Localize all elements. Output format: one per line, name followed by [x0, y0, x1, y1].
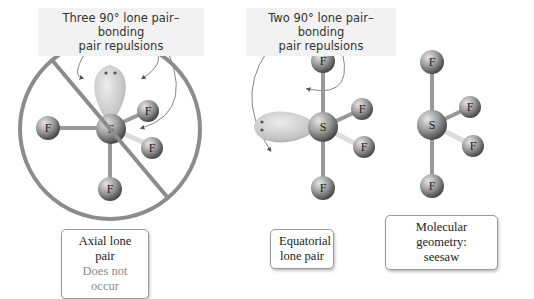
lone-pair-dot	[113, 71, 116, 74]
lone-pair-dot	[104, 71, 107, 74]
svg-text:F: F	[320, 181, 327, 195]
label-line1: Equatorial	[279, 234, 331, 248]
svg-text:F: F	[45, 121, 52, 135]
svg-text:F: F	[107, 182, 114, 196]
label-molecular-geometry: Molecular geometry: seesaw	[385, 215, 498, 270]
svg-text:F: F	[320, 54, 327, 68]
lone-pair-dot	[260, 120, 263, 123]
svg-text:F: F	[467, 100, 474, 114]
svg-text:S: S	[429, 118, 436, 132]
label-line2: seesaw	[424, 250, 459, 264]
caption-line2: pair repulsions	[279, 39, 364, 53]
label-does-not-occur: Does not occur	[70, 264, 140, 294]
caption-two-repulsions: Two 90° lone pair–bonding pair repulsion…	[246, 8, 396, 56]
equatorial-lone-pair-molecule: F F F F S	[252, 38, 375, 200]
caption-line2: pair repulsions	[79, 39, 164, 53]
label-line1: Axial lone pair	[79, 234, 131, 263]
svg-text:F: F	[145, 104, 152, 118]
seesaw-molecule: F F F F S	[417, 50, 484, 198]
caption-line1: Three 90° lone pair–bonding	[63, 11, 180, 39]
lone-pair-dot	[260, 128, 263, 131]
label-line2: lone pair	[280, 249, 324, 263]
svg-text:F: F	[429, 55, 436, 69]
label-axial-lone-pair: Axial lone pair Does not occur	[61, 229, 149, 299]
svg-text:F: F	[429, 179, 436, 193]
caption-three-repulsions: Three 90° lone pair–bonding pair repulsi…	[38, 8, 204, 56]
svg-text:F: F	[149, 141, 156, 155]
label-equatorial-lone-pair: Equatorial lone pair	[270, 229, 334, 269]
svg-text:F: F	[470, 139, 477, 153]
svg-text:S: S	[320, 120, 327, 134]
svg-text:F: F	[361, 140, 368, 154]
label-line1: Molecular geometry:	[416, 220, 467, 249]
axial-lone-pair-molecule: F F F F S	[20, 35, 200, 219]
caption-line1: Two 90° lone pair–bonding	[268, 11, 374, 39]
svg-text:F: F	[359, 102, 366, 116]
